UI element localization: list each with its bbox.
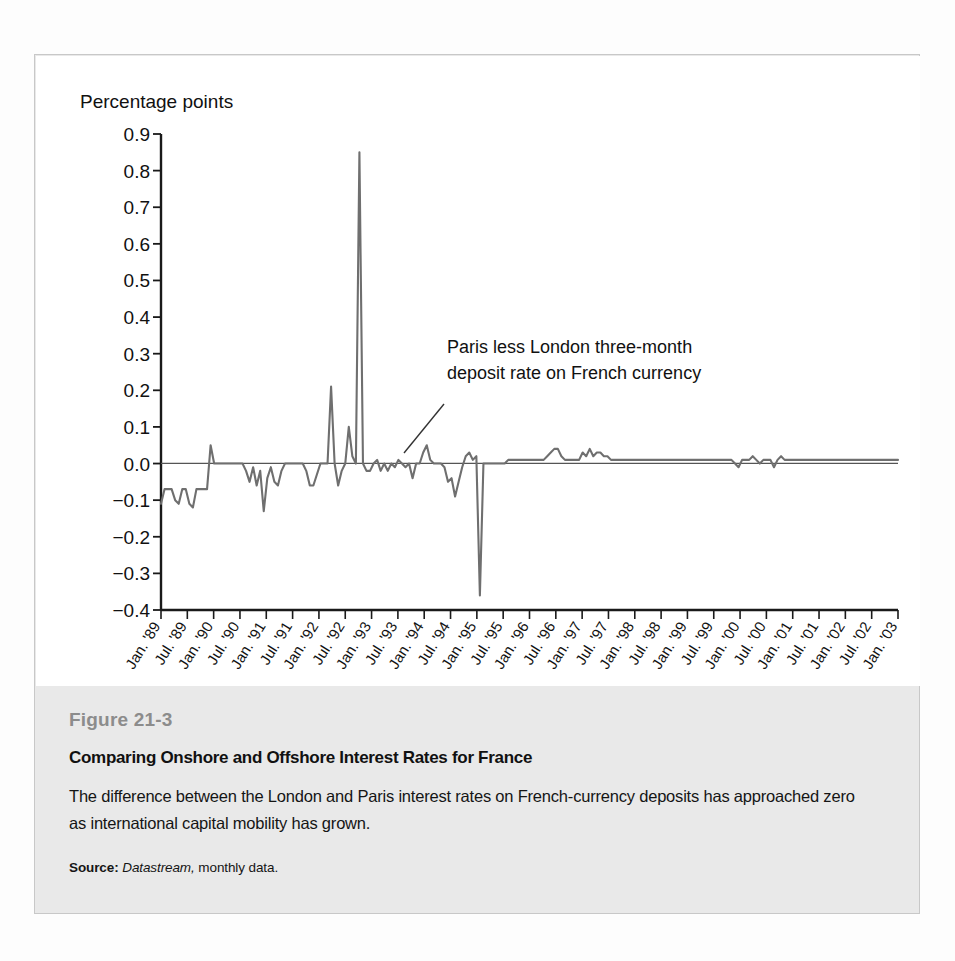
chart-panel: Percentage points 0.90.80.70.60.50.40.30…	[36, 56, 920, 686]
annotation-leader-line	[404, 404, 444, 453]
y-axis-tick-label: −0.3	[112, 563, 150, 584]
y-axis-tick-label: 0.4	[124, 307, 151, 328]
y-axis-tick-label: 0.0	[124, 454, 150, 475]
x-axis-tick-marks	[161, 610, 898, 619]
y-axis-tick-label: 0.8	[124, 161, 150, 182]
y-axis-tick-label: 0.6	[124, 234, 150, 255]
source-label: Source:	[69, 860, 119, 875]
y-axis-tick-label: −0.1	[112, 490, 150, 511]
source-detail: monthly data.	[198, 860, 278, 875]
x-axis-tick-labels: Jan. '89Jul. '89Jan. '90Jul. '90Jan. '91…	[122, 619, 901, 672]
y-axis-tick-label: 0.9	[124, 124, 150, 145]
interest-rate-differential-line-chart: Percentage points 0.90.80.70.60.50.40.30…	[36, 56, 920, 686]
figure-title: Comparing Onshore and Offshore Interest …	[69, 748, 887, 768]
y-axis-tick-label: −0.4	[112, 600, 150, 621]
y-axis-title: Percentage points	[80, 91, 233, 112]
y-axis-tick-label: 0.3	[124, 344, 150, 365]
caption-block: Figure 21-3 Comparing Onshore and Offsho…	[35, 687, 921, 875]
figure-source: Source: Datastream, monthly data.	[69, 860, 887, 875]
annotation-text-line-1: Paris less London three-month	[447, 337, 692, 357]
annotation-group: Paris less London three-month deposit ra…	[404, 337, 701, 453]
y-axis-tick-label: 0.1	[124, 417, 150, 438]
page-background: Percentage points 0.90.80.70.60.50.40.30…	[0, 0, 955, 961]
figure-description: The difference between the London and Pa…	[69, 783, 859, 836]
annotation-text-line-2: deposit rate on French currency	[447, 363, 701, 383]
figure-container: Percentage points 0.90.80.70.60.50.40.30…	[34, 54, 920, 914]
y-axis-title-group: Percentage points	[80, 91, 233, 112]
y-axis-tick-label: 0.7	[124, 197, 150, 218]
y-axis-tick-label: −0.2	[112, 527, 150, 548]
y-axis-tick-label: 0.2	[124, 380, 150, 401]
source-publication: Datastream,	[122, 860, 194, 875]
figure-number: Figure 21-3	[69, 709, 887, 731]
y-axis-tick-labels: 0.90.80.70.60.50.40.30.20.10.0−0.1−0.2−0…	[112, 124, 150, 621]
y-axis-tick-label: 0.5	[124, 270, 150, 291]
